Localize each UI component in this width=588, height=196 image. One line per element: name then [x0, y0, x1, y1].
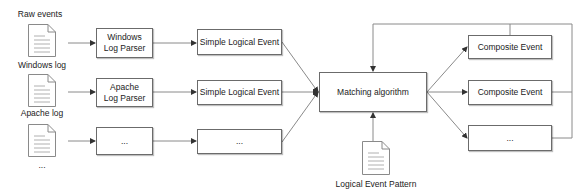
document-icon: [362, 141, 390, 175]
document-icon: [28, 124, 56, 157]
source-label-windows: Windows log: [18, 60, 66, 70]
matching-algorithm: Matching algorithm: [319, 72, 427, 112]
composite-event-2: Composite Event: [468, 80, 552, 105]
composite-event-3: ...: [468, 125, 552, 151]
raw-events-label: Raw events: [18, 9, 62, 19]
simple-event-2: Simple Logical Event: [197, 80, 282, 105]
source-label-more: ...: [38, 160, 45, 170]
pattern-label: Logical Event Pattern: [336, 179, 417, 189]
composite-event-1: Composite Event: [468, 35, 552, 59]
parser-line1: ...: [121, 136, 128, 147]
parser-line1: Apache: [110, 82, 139, 93]
event-processing-diagram: Raw events Windows log Apache log ... Wi…: [0, 0, 588, 196]
parser-line1: Windows: [107, 32, 141, 43]
parser-line2: Log Parser: [104, 93, 146, 104]
source-label-apache: Apache log: [21, 108, 64, 118]
parser-apache: Apache Log Parser: [96, 78, 153, 107]
document-icon: [28, 24, 56, 57]
simple-event-3: ...: [197, 129, 282, 154]
document-icon: [28, 74, 56, 107]
parser-more: ...: [96, 127, 153, 155]
parser-windows: Windows Log Parser: [96, 28, 153, 58]
simple-event-1: Simple Logical Event: [197, 29, 282, 55]
parser-line2: Log Parser: [104, 43, 146, 54]
